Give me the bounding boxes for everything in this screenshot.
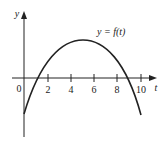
origin-label: 0 — [17, 83, 22, 94]
tick-label: 6 — [92, 84, 97, 95]
tick-label: 10 — [136, 84, 146, 95]
y-axis-arrow-icon — [21, 11, 27, 19]
graph-canvas: 2 4 6 8 10 0 t y y = f(t) — [0, 0, 163, 143]
function-graph: 2 4 6 8 10 0 t y y = f(t) — [0, 0, 163, 143]
tick-label: 8 — [115, 84, 120, 95]
t-axis-arrow-icon — [149, 75, 157, 81]
t-axis-label: t — [155, 82, 158, 93]
tick-label: 2 — [46, 84, 51, 95]
tick-label: 4 — [69, 84, 74, 95]
curve-label: y = f(t) — [96, 26, 126, 38]
y-axis-label: y — [14, 8, 20, 19]
